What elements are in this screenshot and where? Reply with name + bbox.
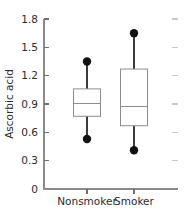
y-tick-label-0: 0 — [31, 183, 38, 195]
y-tick-label-2: 0.6 — [21, 126, 38, 138]
boxplot-figure: 00.30.60.91.21.51.8NonsmokerSmokerAscorb… — [0, 0, 190, 215]
lower-point-0 — [83, 135, 91, 143]
y-axis-title: Ascorbic acid — [3, 69, 15, 139]
y-tick-label-6: 1.8 — [21, 13, 38, 25]
y-tick-label-4: 1.2 — [21, 69, 38, 81]
axis-spine — [44, 19, 178, 189]
y-tick-label-5: 1.5 — [21, 41, 38, 53]
x-category-label-1: Smoker — [114, 195, 154, 207]
x-category-label-0: Nonsmoker — [57, 195, 117, 207]
lower-point-1 — [130, 146, 138, 154]
upper-point-1 — [130, 29, 138, 37]
upper-point-0 — [83, 57, 91, 65]
boxplot-canvas: 00.30.60.91.21.51.8NonsmokerSmokerAscorb… — [0, 0, 190, 215]
box-1 — [121, 69, 148, 126]
y-tick-label-1: 0.3 — [21, 154, 38, 166]
y-tick-label-3: 0.9 — [21, 98, 38, 110]
